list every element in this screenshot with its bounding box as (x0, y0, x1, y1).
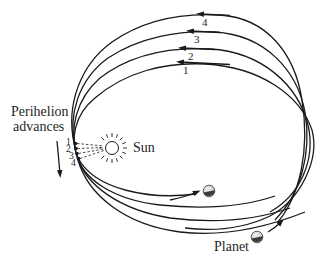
orbit-label-1: 1 (183, 65, 189, 76)
sun-icon (99, 133, 127, 163)
perihelion-advances-label-line1: Perihelion (11, 105, 69, 119)
perihelion-label-4: 4 (71, 159, 76, 169)
orbit-2 (74, 48, 310, 212)
orbit-label-3: 3 (194, 34, 200, 45)
orbit-4 (72, 14, 305, 233)
perihelion-advances-label-line2: advances (13, 120, 64, 134)
planet-label: Planet (214, 240, 249, 254)
diagram-canvas: Perihelion advances Sun Planet 4 3 2 1 1… (0, 0, 326, 261)
arrow-down-icon (57, 141, 60, 174)
planet-icon (203, 185, 215, 197)
planet-icon-2 (251, 231, 263, 243)
orbit-label-4: 4 (202, 17, 208, 28)
perihelion-sun-lines (77, 144, 104, 159)
orbit-label-2: 2 (188, 51, 194, 62)
sun-label: Sun (133, 141, 155, 155)
